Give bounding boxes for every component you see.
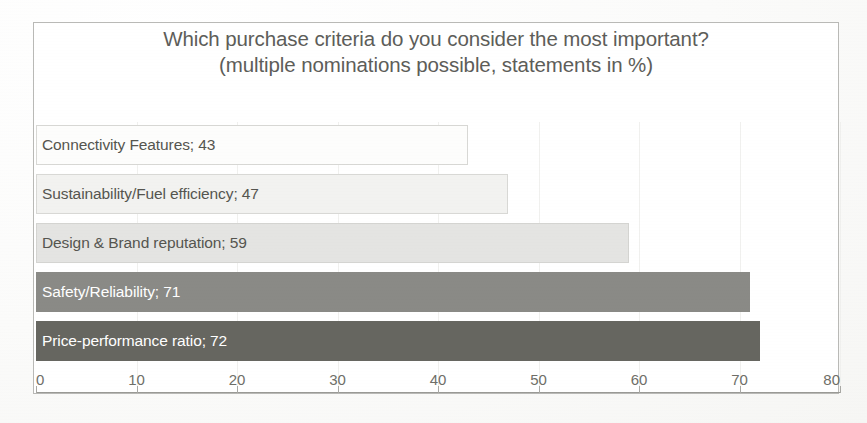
bar-data-label: Connectivity Features; 43 <box>42 125 215 165</box>
x-axis-tick-label: 50 <box>530 371 547 388</box>
bar-row[interactable]: Sustainability/Fuel efficiency; 47 <box>36 174 508 214</box>
x-axis-tick-label: 20 <box>229 371 246 388</box>
chart-title-line-1: Which purchase criteria do you consider … <box>33 26 839 52</box>
x-axis-tick-label: 60 <box>631 371 648 388</box>
x-axis-tick-label: 80 <box>823 371 840 388</box>
bar-data-label: Sustainability/Fuel efficiency; 47 <box>42 174 259 214</box>
bar-row[interactable]: Connectivity Features; 43 <box>36 125 468 165</box>
bar-data-label: Price-performance ratio; 72 <box>42 321 227 361</box>
chart-title: Which purchase criteria do you consider … <box>33 26 839 78</box>
x-axis-tick <box>840 386 841 393</box>
gridline <box>840 122 841 392</box>
x-axis-tick-label: 10 <box>128 371 145 388</box>
bar-data-label: Safety/Reliability; 71 <box>42 272 180 312</box>
x-axis-tick-label: 70 <box>731 371 748 388</box>
plot-area: Connectivity Features; 43Sustainability/… <box>36 122 840 392</box>
x-axis-tick-label: 0 <box>36 371 44 388</box>
chart-title-line-2: (multiple nominations possible, statemen… <box>33 52 839 78</box>
bar-row[interactable]: Price-performance ratio; 72 <box>36 321 760 361</box>
bar-data-label: Design & Brand reputation; 59 <box>42 223 247 263</box>
x-axis-tick-label: 40 <box>430 371 447 388</box>
x-axis-tick-label: 30 <box>329 371 346 388</box>
bar-row[interactable]: Design & Brand reputation; 59 <box>36 223 629 263</box>
bar-row[interactable]: Safety/Reliability; 71 <box>36 272 750 312</box>
